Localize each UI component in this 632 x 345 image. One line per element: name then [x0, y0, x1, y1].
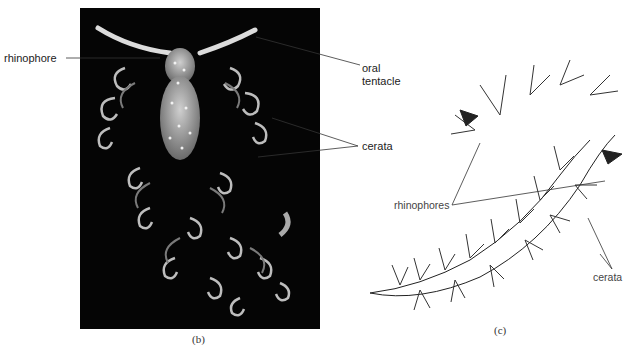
nudibranch-line-drawing	[360, 55, 632, 325]
panel-c-caption: (c)	[494, 324, 506, 336]
oral-tentacle-label-line1: oral	[362, 62, 380, 75]
nudibranch-photo	[80, 8, 320, 329]
cerata-label-c: cerata	[593, 271, 622, 283]
rhinophore-label: rhinophore	[4, 52, 57, 65]
nudibranch-line-drawing-illustration	[360, 55, 632, 325]
oral-tentacle-label-line2: tentacle	[362, 75, 401, 88]
nudibranch-photo-illustration	[80, 8, 320, 329]
panel-b-caption: (b)	[192, 333, 205, 345]
rhinophores-label: rhinophores	[394, 199, 449, 211]
cerata-label-b: cerata	[362, 140, 393, 153]
